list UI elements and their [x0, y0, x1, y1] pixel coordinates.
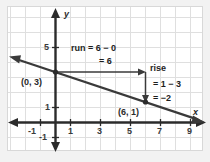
x-tick-7: 7 [157, 127, 162, 136]
rise-arrow [142, 72, 149, 103]
x-tick-9: 9 [187, 127, 192, 136]
y-tick-neg1: -1 [39, 133, 47, 142]
point-label-b: (6, 1) [118, 108, 139, 117]
point-label-a: (0, 3) [21, 78, 42, 87]
run-calc-line1: run = 6 − 0 [71, 44, 116, 53]
y-tick-5: 5 [44, 43, 49, 52]
y-tick-1: 1 [45, 103, 50, 112]
run-calc-line2: = 6 [99, 57, 112, 66]
chart-figure: y x 5 1 -1 -1 1 3 5 7 9 (0, 3) (6, 1) ru… [0, 0, 210, 162]
x-tick-neg1: -1 [28, 127, 36, 136]
rise-label: rise [150, 64, 166, 73]
x-axis-label: x [193, 108, 198, 117]
run-arrow [56, 69, 146, 76]
y-axis-label: y [64, 10, 69, 19]
point-0-3 [53, 69, 58, 74]
x-tick-5: 5 [127, 127, 132, 136]
rise-calc-line1: = 1 − 3 [153, 80, 181, 89]
x-tick-1: 1 [68, 127, 73, 136]
rise-calc-line2: = −2 [153, 94, 171, 103]
x-tick-3: 3 [97, 127, 102, 136]
point-6-1 [143, 99, 148, 104]
